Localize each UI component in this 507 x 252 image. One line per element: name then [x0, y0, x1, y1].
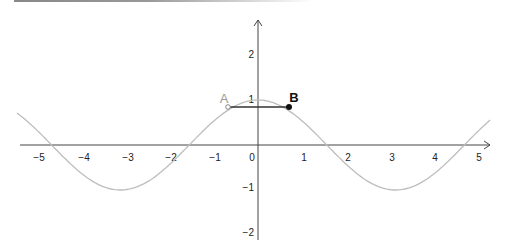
graph-canvas: −5 −4 −3 −2 −1 0 1 2 3 4 5 2 1 −1 −2 A B: [0, 0, 507, 252]
x-tick-label: −1: [209, 152, 221, 163]
x-tick-label: −5: [33, 152, 45, 163]
x-tick-label: 2: [345, 152, 351, 163]
y-tick-label: 1: [248, 94, 254, 105]
y-tick-labels: 2 1 −1 −2: [243, 49, 255, 238]
y-tick-label: −2: [243, 227, 255, 238]
x-tick-label: 1: [301, 152, 307, 163]
x-tick-label: −4: [78, 152, 90, 163]
point-b-label: B: [289, 90, 298, 105]
y-axis: [254, 20, 262, 240]
point-a-label: A: [220, 91, 229, 106]
x-tick-label: −3: [122, 152, 134, 163]
x-tick-label: 3: [389, 152, 395, 163]
x-tick-label: 5: [476, 152, 482, 163]
x-tick-label: −2: [165, 152, 177, 163]
y-tick-label: 2: [248, 49, 254, 60]
y-tick-label: −1: [243, 182, 255, 193]
x-tick-label: 4: [432, 152, 438, 163]
x-axis: [20, 141, 490, 149]
x-tick-label: 0: [249, 152, 255, 163]
top-border: [14, 0, 314, 2]
